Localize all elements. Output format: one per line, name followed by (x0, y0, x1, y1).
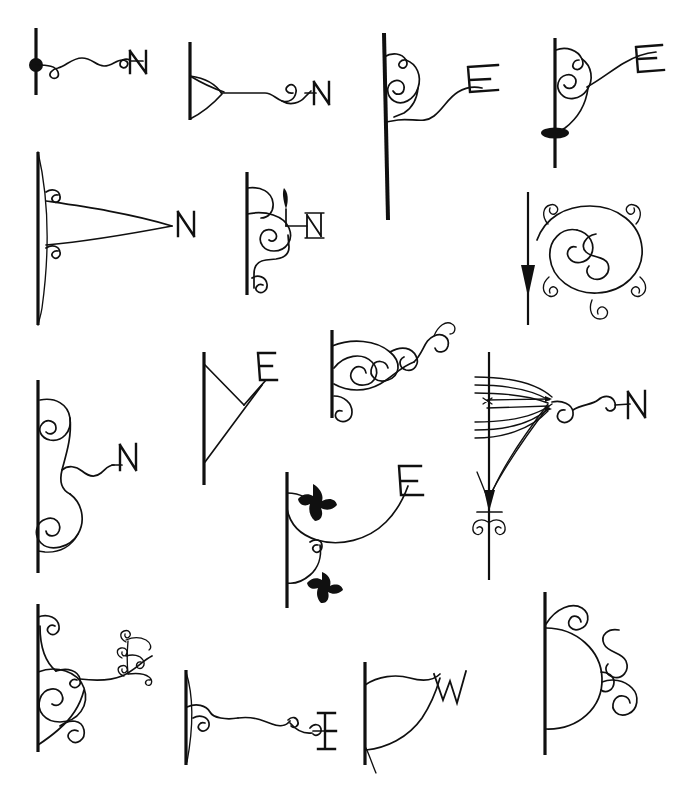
design-4-lens-boss (541, 128, 569, 139)
design-sheet: Decorative Wrought-Iron Bracket Designs … (0, 0, 674, 797)
bracket-designs-canvas: N N E (0, 0, 674, 797)
paper-background (0, 0, 674, 797)
